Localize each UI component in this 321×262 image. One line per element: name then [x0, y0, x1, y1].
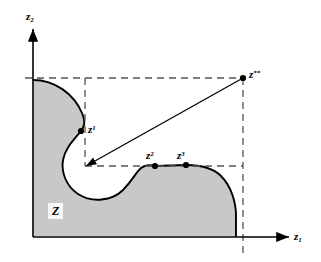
improvement-direction-arrow — [86, 78, 243, 166]
point-marker-z3 — [183, 162, 189, 168]
point-label-z2: z2 — [146, 150, 154, 161]
point-label-z3: z3 — [177, 150, 185, 161]
point-label-z1: z1 — [88, 124, 96, 135]
set-label-z: Z — [48, 203, 63, 219]
point-marker-zstarstar — [240, 75, 246, 81]
y-axis-label: z2 — [26, 11, 34, 23]
diagram-svg — [0, 0, 321, 262]
point-label-z-ideal: z** — [249, 69, 260, 80]
figure-canvas: z2 z1 z1 z2 z3 z** Z — [0, 0, 321, 262]
data-point-markers — [78, 75, 246, 169]
point-marker-z1 — [78, 128, 84, 134]
x-axis-label: z1 — [294, 231, 302, 243]
point-marker-z2 — [152, 163, 158, 169]
